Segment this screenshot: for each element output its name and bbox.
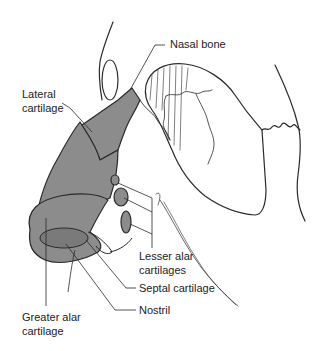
label-lateral-cartilage-line1: Lateral <box>22 88 56 101</box>
label-lesser-alar-line2: cartilages <box>139 264 186 277</box>
lesser-alar-2 <box>114 188 128 206</box>
lesser-alar-1 <box>111 175 119 185</box>
leader-lesser-alar-2 <box>124 198 152 212</box>
zygomatic-suture <box>262 123 300 130</box>
label-nasal-bone: Nasal bone <box>170 38 226 51</box>
label-lesser-alar-line1: Lesser alar <box>139 250 193 263</box>
hatched-oval <box>102 60 118 100</box>
orbit-crack-1 <box>166 90 212 96</box>
cheek-fold-3 <box>156 193 160 205</box>
alar-rim <box>110 238 132 252</box>
label-lateral-cartilage-line2: cartilage <box>22 102 64 115</box>
label-greater-alar-line1: Greater alar <box>22 311 81 324</box>
cheek-contour <box>275 65 305 221</box>
label-septal-cartilage: Septal cartilage <box>139 282 215 295</box>
leader-lesser-alar-3 <box>130 224 152 234</box>
diagram-drawing <box>0 0 328 351</box>
nose-anatomy-diagram: Nasal bone Lateral cartilage Lesser alar… <box>0 0 328 351</box>
lesser-alar-3 <box>121 211 131 233</box>
label-nostril: Nostril <box>139 304 170 317</box>
label-greater-alar-line2: cartilage <box>22 325 64 338</box>
orbit-crack-2 <box>196 94 214 164</box>
nostril-shape <box>40 228 88 248</box>
